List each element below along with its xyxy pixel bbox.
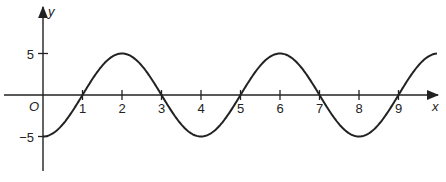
axes: [4, 7, 438, 171]
x-tick-label: 9: [395, 101, 402, 116]
x-axis-label: x: [431, 99, 439, 114]
y-axis-label: y: [47, 4, 56, 19]
x-tick-label: 6: [276, 101, 283, 116]
y-tick-label: −5: [19, 130, 34, 145]
x-tick-label: 8: [355, 101, 362, 116]
x-tick-label: 3: [158, 101, 165, 116]
x-tick-label: 2: [118, 101, 125, 116]
x-tick-label: 1: [79, 101, 86, 116]
origin-label: O: [29, 99, 39, 114]
sine-graph: 123456789 5−5 x y O: [0, 0, 446, 182]
x-tick-label: 7: [316, 101, 323, 116]
x-tick-label: 4: [197, 101, 204, 116]
y-tick-label: 5: [27, 47, 34, 62]
x-tick-label: 5: [237, 101, 244, 116]
